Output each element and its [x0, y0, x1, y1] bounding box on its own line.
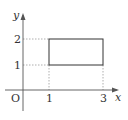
y-axis-label: y — [12, 9, 20, 22]
x-axis-label: x — [115, 91, 122, 104]
x-tick-1: 1 — [46, 92, 53, 105]
coordinate-diagram: y 2 1 O 1 3 x — [0, 0, 128, 120]
origin-label: O — [11, 92, 20, 105]
x-tick-3: 3 — [100, 92, 107, 105]
y-axis-arrow-icon — [21, 13, 26, 20]
y-tick-1: 1 — [14, 59, 21, 72]
rectangle — [49, 39, 103, 65]
y-tick-2: 2 — [14, 33, 21, 46]
